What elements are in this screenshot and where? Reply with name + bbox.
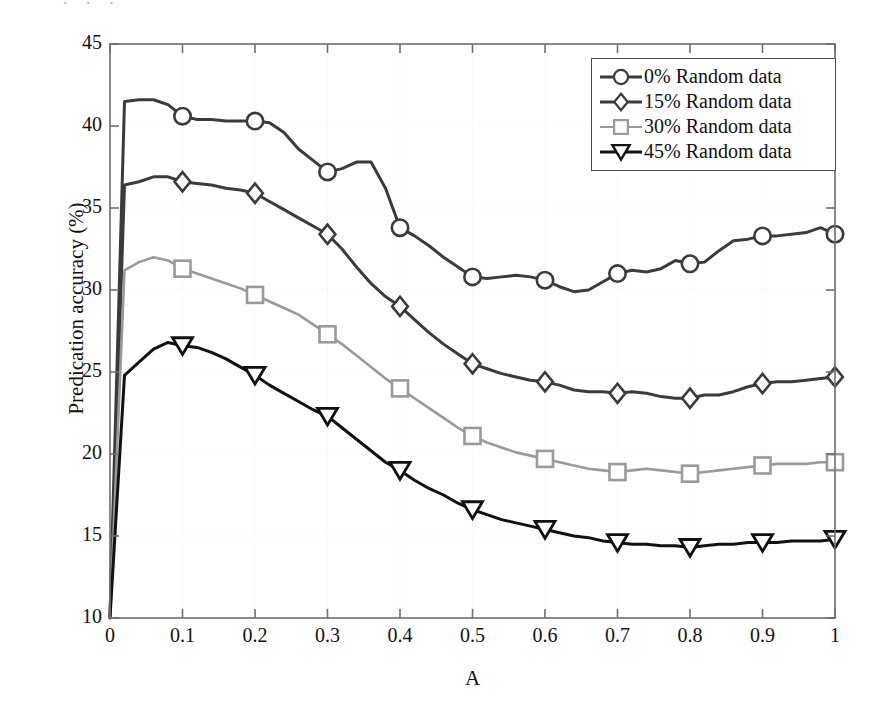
data-marker-diamond [175, 172, 191, 191]
diamond-marker-icon [614, 93, 628, 110]
legend-item-label: 0% Random data [644, 65, 782, 88]
series-1 [110, 172, 843, 616]
data-marker-square [682, 466, 698, 482]
circle-marker-icon [682, 256, 698, 272]
x-tick-label: 0.9 [733, 624, 793, 647]
diamond-marker-icon [682, 389, 698, 408]
data-marker-circle [247, 113, 263, 129]
triangle-down-marker-icon [463, 502, 483, 519]
legend-sample-canvas [599, 115, 643, 139]
y-tick-label-text: 35 [60, 195, 102, 218]
y-tick-label-text: 45 [60, 31, 102, 54]
legend-sample-canvas [599, 65, 643, 89]
y-tick-label-text: 30 [60, 277, 102, 300]
data-marker-diamond [755, 374, 771, 393]
data-marker-diamond [610, 384, 626, 403]
circle-marker-icon [537, 272, 553, 288]
diamond-marker-icon [610, 384, 626, 403]
legend-marker-sample [599, 65, 643, 89]
x-tick-label: 0.8 [660, 624, 720, 647]
data-marker-diamond [614, 93, 628, 110]
legend-marker-sample [599, 90, 643, 114]
circle-marker-icon [754, 228, 770, 244]
legend-item[interactable]: 45% Random data [599, 139, 829, 164]
data-marker-circle [392, 219, 408, 235]
x-tick-label: 1 [805, 624, 865, 647]
diamond-marker-icon [537, 372, 553, 391]
circle-marker-icon [464, 269, 480, 285]
square-marker-icon [537, 451, 553, 467]
diamond-marker-icon [755, 374, 771, 393]
chart-figure: · · · Predication accuracy (%) A 1015202… [0, 0, 871, 709]
diamond-marker-icon [175, 172, 191, 191]
chart-legend: 0% Random data15% Random data30% Random … [591, 58, 836, 171]
legend-item-label: 15% Random data [644, 90, 792, 113]
data-marker-square [614, 120, 628, 134]
y-tick-label-text: 15 [60, 523, 102, 546]
series-3 [110, 338, 845, 618]
y-tick-label-text: 20 [60, 441, 102, 464]
square-marker-icon [614, 120, 628, 134]
data-marker-circle [754, 228, 770, 244]
data-marker-circle [537, 272, 553, 288]
legend-item[interactable]: 30% Random data [599, 114, 829, 139]
legend-marker-sample [599, 115, 643, 139]
x-tick-label: 0.1 [153, 624, 213, 647]
x-tick-label: 0.3 [298, 624, 358, 647]
series-2 [110, 257, 843, 618]
square-marker-icon [465, 428, 481, 444]
data-marker-square [175, 261, 191, 277]
square-marker-icon [610, 464, 626, 480]
diamond-marker-icon [465, 354, 481, 373]
circle-marker-icon [614, 69, 628, 83]
data-marker-diamond [247, 184, 263, 203]
data-marker-diamond [537, 372, 553, 391]
data-marker-circle [319, 164, 335, 180]
x-axis-title: A [110, 666, 835, 691]
data-marker-circle [614, 69, 628, 83]
x-tick-label: 0.7 [588, 624, 648, 647]
circle-marker-icon [319, 164, 335, 180]
data-marker-circle [464, 269, 480, 285]
square-marker-icon [755, 457, 771, 473]
x-tick-label: 0.4 [370, 624, 430, 647]
square-marker-icon [392, 380, 408, 396]
circle-marker-icon [174, 108, 190, 124]
data-marker-square [610, 464, 626, 480]
legend-item[interactable]: 15% Random data [599, 89, 829, 114]
data-marker-diamond [465, 354, 481, 373]
data-marker-square [247, 287, 263, 303]
x-tick-label: 0.6 [515, 624, 575, 647]
x-tick-label: 0.5 [443, 624, 503, 647]
legend-item[interactable]: 0% Random data [599, 64, 829, 89]
legend-item-label: 45% Random data [644, 140, 792, 163]
legend-sample-canvas [599, 140, 643, 164]
legend-item-label: 30% Random data [644, 115, 792, 138]
data-marker-triangle-down [463, 502, 483, 519]
data-marker-circle [682, 256, 698, 272]
diamond-marker-icon [247, 184, 263, 203]
legend-sample-canvas [599, 90, 643, 114]
data-marker-square [537, 451, 553, 467]
data-marker-circle [174, 108, 190, 124]
square-marker-icon [682, 466, 698, 482]
x-tick-label: 0.2 [225, 624, 285, 647]
y-tick-label-text: 40 [60, 113, 102, 136]
square-marker-icon [175, 261, 191, 277]
legend-marker-sample [599, 140, 643, 164]
data-marker-square [392, 380, 408, 396]
x-tick-label: 0 [80, 624, 140, 647]
square-marker-icon [320, 326, 336, 342]
data-marker-diamond [682, 389, 698, 408]
circle-marker-icon [247, 113, 263, 129]
data-marker-square [465, 428, 481, 444]
data-marker-square [320, 326, 336, 342]
circle-marker-icon [392, 219, 408, 235]
data-marker-circle [609, 265, 625, 281]
data-marker-square [755, 457, 771, 473]
square-marker-icon [247, 287, 263, 303]
circle-marker-icon [609, 265, 625, 281]
y-tick-label-text: 25 [60, 359, 102, 382]
